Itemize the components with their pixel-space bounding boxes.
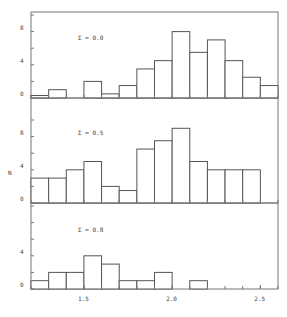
y-tick-label: 8 bbox=[20, 24, 24, 31]
histogram-bar bbox=[31, 281, 49, 289]
x-tick-label: 2.5 bbox=[254, 295, 265, 302]
histogram-bar bbox=[119, 86, 137, 98]
histogram-bar bbox=[155, 272, 173, 289]
panel-label: Σ ≈ 0.5 bbox=[78, 129, 104, 136]
histogram-bar bbox=[102, 264, 120, 289]
histogram-bar bbox=[31, 178, 49, 203]
y-tick-label: 0 bbox=[20, 195, 24, 202]
histogram-bar bbox=[102, 186, 120, 203]
histogram-bar bbox=[137, 69, 155, 98]
histogram-bar bbox=[172, 128, 190, 203]
histogram-bar bbox=[49, 178, 67, 203]
histogram-bar bbox=[225, 61, 243, 98]
y-tick-label: 4 bbox=[20, 162, 24, 169]
histogram-bar bbox=[243, 170, 261, 203]
y-tick-label: 0 bbox=[20, 90, 24, 97]
histogram-bar bbox=[84, 256, 102, 289]
y-tick-label: 8 bbox=[20, 129, 24, 136]
histogram-bar bbox=[66, 272, 84, 289]
histogram-bar bbox=[190, 52, 208, 98]
y-tick-label: 0 bbox=[20, 281, 24, 288]
histogram-bar bbox=[66, 170, 84, 203]
histogram-figure: 048Σ ≈ 0.0048Σ ≈ 0.504Σ ≈ 0.81.52.02.5 N bbox=[0, 0, 287, 317]
histogram-bar bbox=[119, 281, 137, 289]
histogram-bar bbox=[260, 86, 278, 98]
panel-2: 048Σ ≈ 0.5 bbox=[20, 98, 278, 203]
histogram-bar bbox=[243, 77, 261, 98]
histogram-bar bbox=[49, 90, 67, 98]
histogram-bar bbox=[137, 149, 155, 203]
y-tick-label: 4 bbox=[20, 57, 24, 64]
y-tick-label: 4 bbox=[20, 248, 24, 255]
panel-label: Σ ≈ 0.8 bbox=[78, 226, 104, 233]
panel-3: 04Σ ≈ 0.8 bbox=[20, 203, 278, 289]
histogram-bar bbox=[84, 162, 102, 204]
histogram-bar bbox=[119, 191, 137, 203]
histogram-bar bbox=[155, 141, 173, 203]
histogram-bar bbox=[190, 162, 208, 204]
histogram-bar bbox=[207, 170, 225, 203]
histogram-bar bbox=[49, 272, 67, 289]
y-axis-label: N bbox=[8, 169, 12, 176]
panel-label: Σ ≈ 0.0 bbox=[78, 34, 104, 41]
histogram-bar bbox=[137, 281, 155, 289]
panel-1: 048Σ ≈ 0.0 bbox=[20, 12, 278, 98]
x-tick-label: 1.5 bbox=[78, 295, 89, 302]
histogram-bar bbox=[102, 94, 120, 98]
histogram-bar bbox=[84, 81, 102, 98]
histogram-bar bbox=[190, 281, 208, 289]
histogram-bar bbox=[207, 40, 225, 98]
x-tick-label: 2.0 bbox=[166, 295, 177, 302]
histogram-bar bbox=[155, 61, 173, 98]
histogram-bar bbox=[172, 32, 190, 98]
histogram-bar bbox=[225, 170, 243, 203]
